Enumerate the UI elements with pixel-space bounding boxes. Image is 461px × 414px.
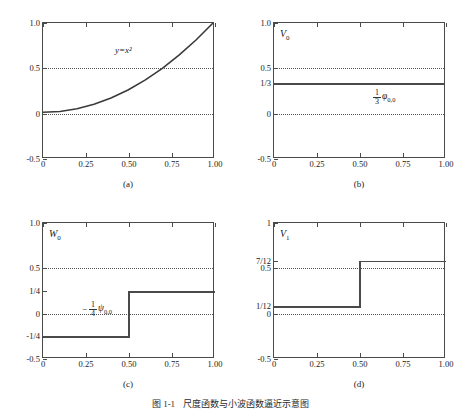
ytickmark-a-0: [43, 114, 47, 115]
xtickmark-b-0.50: [360, 23, 361, 27]
ytickmark-c-1-4: [43, 291, 47, 292]
xtickmark-c-bottom-0.25: [86, 353, 87, 357]
ytickmark-d-7-12: [274, 261, 278, 262]
xtick-label-c-4: 1.00: [208, 360, 223, 369]
xtickmark-d-0: [274, 223, 275, 227]
ytick-label-a-0: 1.0: [29, 19, 40, 28]
panel-c-plot-frame: 1.0 0.5 1/4 0 -1/4 -0.5 0 0.25 0.50 0.75…: [42, 222, 214, 358]
curve-label-text: y=x²: [115, 45, 132, 55]
xtickmark-d-bottom-0.25: [317, 353, 318, 357]
gridline-b-0.5: [274, 68, 444, 69]
annotation-b-denominator: 3: [373, 97, 381, 106]
annotation-c-symbol-sub: 0,0: [104, 308, 112, 315]
xtickmark-a-0.25: [86, 23, 87, 27]
ytickmark-c--1-4: [43, 336, 47, 337]
series-label-v1: V1: [280, 229, 290, 242]
xtickmark-b-bottom-0.25: [317, 153, 318, 157]
xtick-label-a-4: 1.00: [208, 160, 223, 169]
ytick-label-b-3: 0: [267, 109, 271, 118]
ytickmark-d-0: [274, 314, 278, 315]
xtickmark-b-0.25: [317, 23, 318, 27]
series-label-w0: W0: [49, 229, 61, 242]
xtick-label-b-0: 0: [272, 160, 276, 169]
xtick-label-a-1: 0.25: [79, 160, 94, 169]
xtickmark-b-0.75: [403, 23, 404, 27]
xtickmark-c-0.75: [172, 223, 173, 227]
ytick-label-c-3: 0: [36, 309, 40, 318]
ytickmark-a-0.5: [43, 68, 47, 69]
annotation-b-symbol: φ0,0: [382, 92, 395, 103]
ytick-label-a-1: 0.5: [29, 64, 40, 73]
ytick-label-b-0: 1.0: [260, 19, 271, 28]
ytick-label-c-2: 1/4: [29, 287, 40, 296]
xtick-label-b-3: 0.75: [396, 160, 411, 169]
xtickmark-a-bottom-0.25: [86, 153, 87, 157]
ytick-label-c-5: -0.5: [27, 355, 40, 364]
ytickmark-c-0.5: [43, 268, 47, 269]
xtickmark-c-0: [43, 223, 44, 227]
xtick-label-a-0: 0: [41, 160, 45, 169]
panel-a-plot-frame: 1.0 0.5 0 -0.5 0 0.25 0.50 0.75 1.00 y=x…: [42, 22, 214, 158]
annotation-c-symbol: ψ0,0: [98, 304, 112, 315]
ytickmark-b-0.5: [274, 68, 278, 69]
ytickmark-b-1-3: [274, 83, 278, 84]
figure-caption: 图 1-1尺度函数与小波函数逼近示意图: [0, 399, 461, 410]
gridline-c-0.5: [43, 268, 213, 269]
xtickmark-d-0.25: [317, 223, 318, 227]
xtickmark-a-0.50: [129, 23, 130, 27]
panel-b: 1.0 0.5 1/3 0 -0.5 0 0.25 0.50 0.75 1.00…: [231, 0, 461, 195]
figure-caption-text: 尺度函数与小波函数逼近示意图: [183, 399, 309, 409]
curve-label-y-x-squared: y=x²: [115, 46, 132, 55]
ytickmark-c-0: [43, 314, 47, 315]
ytick-label-c-0: 1.0: [29, 219, 40, 228]
xtickmark-a-1.00: [215, 23, 216, 27]
xtickmark-a-0: [43, 23, 44, 27]
annotation-minus-quarter-psi: − 1 4 ψ0,0: [82, 301, 112, 319]
ytick-label-d-0: 1: [267, 219, 271, 228]
series-label-v0-sub: 0: [286, 34, 290, 42]
xtick-label-d-2: 0.50: [353, 360, 368, 369]
xtick-label-a-2: 0.50: [122, 160, 137, 169]
xtick-label-b-2: 0.50: [353, 160, 368, 169]
dataline-c-high-segment: [128, 291, 215, 293]
xtick-label-c-2: 0.50: [122, 360, 137, 369]
xtickmark-a-bottom-0.50: [129, 153, 130, 157]
dataline-d-jump: [359, 261, 361, 308]
gridline-d-0: [274, 314, 444, 315]
xtick-label-b-1: 0.25: [310, 160, 325, 169]
annotation-c-denominator: 4: [89, 309, 97, 318]
ytickmark-d-1-12: [274, 306, 278, 307]
xtickmark-c-bottom-0.75: [172, 353, 173, 357]
dataline-d-high-segment: [359, 261, 446, 263]
xtickmark-b-0: [274, 23, 275, 27]
xtick-label-c-1: 0.25: [79, 360, 94, 369]
xtick-label-a-3: 0.75: [165, 160, 180, 169]
figure-caption-number: 图 1-1: [152, 399, 175, 409]
ytick-label-c-4: -1/4: [26, 332, 40, 341]
xtickmark-d-0.50: [360, 223, 361, 227]
xtickmark-b-1.00: [446, 23, 447, 27]
ytick-label-b-4: -0.5: [258, 155, 271, 164]
ytick-label-d-5: -0.5: [258, 355, 271, 364]
xtickmark-d-bottom-0.75: [403, 353, 404, 357]
ytick-label-a-2: 0: [36, 109, 40, 118]
panel-a: 1.0 0.5 0 -0.5 0 0.25 0.50 0.75 1.00 y=x…: [0, 0, 230, 195]
panel-c: 1.0 0.5 1/4 0 -1/4 -0.5 0 0.25 0.50 0.75…: [0, 200, 230, 395]
ytick-label-b-1: 0.5: [260, 64, 271, 73]
xtick-label-d-0: 0: [272, 360, 276, 369]
ytick-label-d-2: 0.5: [260, 264, 271, 273]
annotation-b-numerator: 1: [373, 89, 381, 97]
subcaption-a: (a): [123, 180, 133, 189]
dataline-c-low-segment: [43, 336, 129, 338]
dataline-b-constant-one-third: [274, 83, 444, 85]
series-label-w0-sub: 0: [57, 234, 61, 242]
ytickmark-b-0: [274, 114, 278, 115]
xtickmark-d-1.00: [446, 223, 447, 227]
figure-container: 1.0 0.5 0 -0.5 0 0.25 0.50 0.75 1.00 y=x…: [0, 0, 461, 414]
dataline-c-jump: [128, 291, 130, 338]
dataline-d-low-segment: [274, 306, 360, 308]
series-label-v0: V0: [280, 29, 290, 42]
xtickmark-a-bottom-0.75: [172, 153, 173, 157]
xtick-label-d-1: 0.25: [310, 360, 325, 369]
ytick-label-c-1: 0.5: [29, 264, 40, 273]
